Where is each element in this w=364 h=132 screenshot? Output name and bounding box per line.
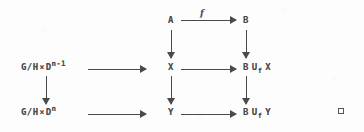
diagram-canvas: A f B G/H×Dn-1 X BUfX bbox=[0, 0, 364, 132]
times-symbol: × bbox=[38, 108, 45, 117]
node-label-operand: Y bbox=[265, 107, 271, 117]
arrow-cellbound-to-cell bbox=[42, 76, 51, 104]
arrow-b-to-pushout-x bbox=[242, 30, 251, 58]
arrow-y-to-pushout-y bbox=[181, 110, 236, 119]
arrow-head bbox=[230, 65, 237, 73]
arrow-shaft bbox=[181, 69, 236, 70]
arrow-cellbound-to-x bbox=[88, 65, 146, 74]
arrow-head bbox=[242, 98, 250, 105]
node-label-exponent: n bbox=[52, 104, 57, 113]
arrow-a-to-b bbox=[181, 16, 236, 25]
arrow-head bbox=[167, 98, 175, 105]
arrow-shaft bbox=[181, 20, 236, 21]
node-label-prefix: G/H bbox=[21, 107, 38, 117]
arrow-head bbox=[42, 98, 50, 105]
arrow-head bbox=[140, 110, 147, 118]
arrow-head bbox=[230, 110, 237, 118]
node-label-base: B bbox=[243, 62, 249, 72]
node-label: X bbox=[168, 62, 174, 72]
node-label: B bbox=[243, 15, 249, 25]
arrow-x-to-pushout-x bbox=[181, 65, 236, 74]
node-top-middle: A bbox=[168, 16, 174, 25]
arrow-head bbox=[230, 16, 237, 24]
arrow-a-to-x bbox=[167, 30, 176, 58]
node-mid-middle: X bbox=[168, 63, 174, 72]
arrow-pushout-x-to-pushout-y bbox=[242, 76, 251, 104]
node-mid-left: G/H×Dn-1 bbox=[21, 63, 66, 72]
times-symbol: × bbox=[38, 63, 45, 72]
node-bot-right: BUfY bbox=[243, 108, 271, 117]
node-mid-right: BUfX bbox=[243, 63, 271, 72]
union-subscript: f bbox=[258, 67, 263, 75]
arrow-head bbox=[167, 52, 175, 59]
node-label-exponent: n-1 bbox=[52, 59, 66, 68]
node-label-base: B bbox=[243, 107, 249, 117]
union-subscript: f bbox=[258, 112, 263, 120]
arrow-shaft bbox=[181, 114, 236, 115]
node-bot-middle: Y bbox=[168, 108, 174, 117]
arrow-head bbox=[242, 52, 250, 59]
node-label: A bbox=[168, 15, 174, 25]
arrow-shaft bbox=[88, 114, 146, 115]
arrow-head bbox=[140, 65, 147, 73]
arrow-shaft bbox=[88, 69, 146, 70]
node-top-right: B bbox=[243, 16, 249, 25]
arrow-x-to-y bbox=[167, 76, 176, 104]
node-bot-left: G/H×Dn bbox=[21, 108, 56, 117]
node-label-prefix: G/H bbox=[21, 62, 38, 72]
node-label-operand: X bbox=[265, 62, 271, 72]
arrow-cell-to-y bbox=[88, 110, 146, 119]
qed-tombstone-icon bbox=[338, 108, 344, 114]
node-label: Y bbox=[168, 107, 174, 117]
